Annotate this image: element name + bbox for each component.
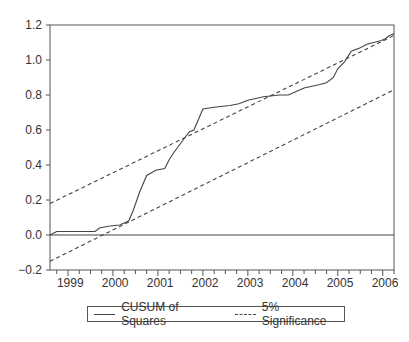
y-tick-label: 1.2 <box>25 18 42 32</box>
cusum-squares-line <box>50 34 394 235</box>
dashed-line-swatch-icon <box>235 314 256 315</box>
y-tick-label: 0.0 <box>25 228 42 242</box>
y-tick-label: 0.2 <box>25 193 42 207</box>
x-tick-label: 2005 <box>327 276 354 290</box>
x-tick-label: 2006 <box>372 276 399 290</box>
solid-line-swatch-icon <box>94 314 115 315</box>
y-tick-label: −0.2 <box>18 263 42 277</box>
legend-item-significance: 5% Significance <box>235 300 344 328</box>
y-tick-label: 1.0 <box>25 53 42 67</box>
y-axis: −0.20.00.20.40.60.81.01.2 <box>18 18 50 277</box>
y-tick-label: 0.8 <box>25 88 42 102</box>
cusum-chart: −0.20.00.20.40.60.81.01.2 19992000200120… <box>0 0 409 305</box>
series-layer <box>50 34 394 261</box>
y-tick-label: 0.4 <box>25 158 42 172</box>
chart-legend: CUSUM of Squares 5% Significance <box>87 306 345 322</box>
significance-band-line <box>50 36 394 204</box>
legend-item-cusum: CUSUM of Squares <box>94 300 223 328</box>
y-tick-label: 0.6 <box>25 123 42 137</box>
x-tick-label: 2002 <box>192 276 219 290</box>
x-axis: 19992000200120022003200420052006 <box>57 270 399 290</box>
x-tick-label: 2003 <box>237 276 264 290</box>
legend-label-significance: 5% Significance <box>262 300 344 328</box>
x-tick-label: 1999 <box>57 276 84 290</box>
x-tick-label: 2001 <box>147 276 174 290</box>
x-tick-label: 2000 <box>102 276 129 290</box>
plot-frame <box>50 25 394 270</box>
x-tick-label: 2004 <box>282 276 309 290</box>
legend-label-cusum: CUSUM of Squares <box>121 300 222 328</box>
significance-band-line <box>50 90 394 261</box>
